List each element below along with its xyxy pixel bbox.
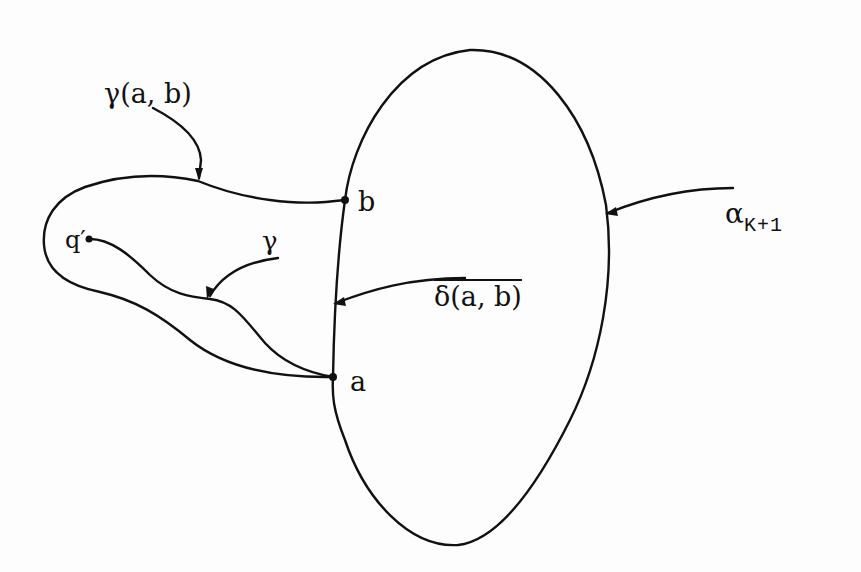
label-delta-ab: δ(a, b) [434, 283, 522, 310]
path-gamma [88, 239, 333, 377]
label-gamma: γ [262, 228, 278, 254]
label-alpha-subscript: K+1 [744, 214, 783, 237]
point-a-dot [329, 373, 337, 381]
arc-gamma-ab [44, 176, 345, 377]
point-q-dot [86, 236, 93, 243]
pointer-gamma [210, 258, 278, 296]
label-gamma-ab: γ(a, b) [104, 80, 192, 107]
diagram-canvas: γ(a, b) γ δ(a, b) αK+1 b a q′ [0, 0, 861, 572]
label-alpha-main: α [725, 197, 744, 230]
point-b-dot [341, 196, 349, 204]
pointer-alpha [608, 188, 733, 213]
label-point-b: b [358, 188, 375, 215]
pointer-gamma-ab [153, 108, 201, 178]
arrowhead-gamma-ab-icon [195, 168, 203, 181]
label-alpha-k-plus-1: αK+1 [725, 200, 783, 228]
arrowheads [195, 168, 618, 306]
label-point-a: a [350, 368, 366, 395]
label-point-q-prime: q′ [65, 228, 86, 252]
points [86, 196, 350, 381]
